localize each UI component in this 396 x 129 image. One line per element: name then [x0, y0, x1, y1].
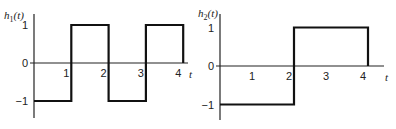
chart-title: h2(t) [198, 7, 218, 22]
y-tick-label: 1 [208, 22, 214, 34]
x-axis-label: t [385, 71, 389, 83]
chart-panel-2: h2(t)10−11234t [198, 7, 389, 120]
x-tick-label: 4 [360, 70, 366, 82]
x-tick-label: 4 [175, 67, 181, 79]
x-axis-label: t [189, 68, 193, 80]
y-tick-label: 1 [22, 19, 28, 31]
figure: h1(t)10−11234th2(t)10−11234t [0, 0, 396, 129]
x-tick-label: 3 [323, 70, 329, 82]
y-tick-label: −1 [15, 95, 28, 107]
x-tick-label: 1 [63, 67, 69, 79]
x-tick-label: 1 [249, 70, 255, 82]
x-tick-label: 2 [286, 70, 292, 82]
x-tick-label: 2 [101, 67, 107, 79]
y-tick-label: 0 [22, 57, 28, 69]
y-tick-label: 0 [208, 60, 214, 72]
x-tick-label: 3 [138, 67, 144, 79]
chart-panel-1: h1(t)10−11234t [4, 9, 193, 118]
y-tick-label: −1 [201, 99, 214, 111]
